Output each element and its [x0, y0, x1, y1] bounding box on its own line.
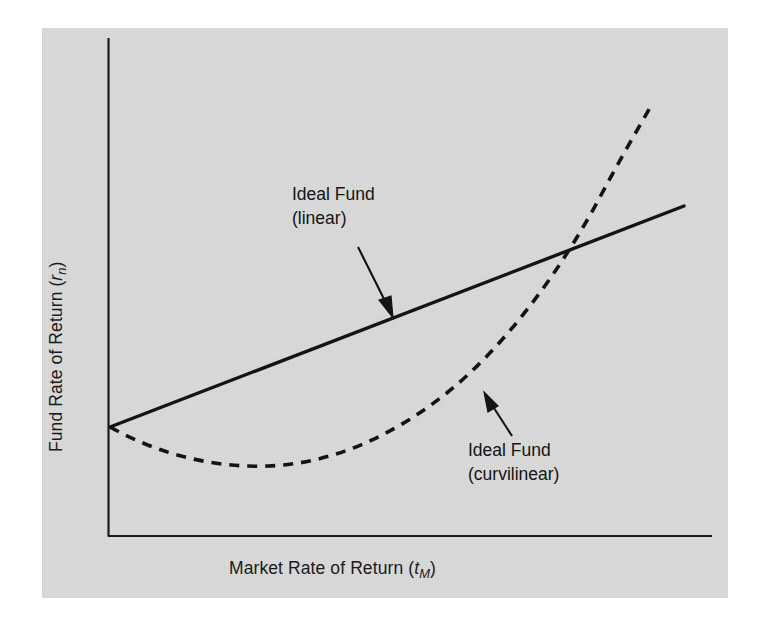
annotation-ideal-fund-curvilinear: Ideal Fund (curvilinear) [468, 438, 559, 486]
annotation-ideal-fund-linear: Ideal Fund (linear) [292, 182, 375, 230]
y-axis-label-subscript: n [54, 267, 69, 274]
annotation-linear-line2: (linear) [292, 206, 375, 230]
annotation-curvilinear-line1: Ideal Fund [468, 438, 559, 462]
figure-page: Fund Rate of Return (rn) Market Rate of … [0, 0, 771, 635]
y-axis-label-suffix: ) [46, 261, 66, 267]
y-axis-label-variable: r [46, 275, 66, 281]
figure-background-panel [42, 28, 728, 598]
y-axis-label-prefix: Fund Rate of Return ( [46, 281, 66, 452]
x-axis-label-suffix: ) [430, 558, 436, 578]
x-axis-label: Market Rate of Return (tM) [229, 558, 436, 581]
annotation-curvilinear-line2: (curvilinear) [468, 462, 559, 486]
x-axis-label-prefix: Market Rate of Return ( [229, 558, 414, 578]
x-axis-label-subscript: M [419, 566, 430, 581]
y-axis-label: Fund Rate of Return (rn) [46, 261, 69, 452]
annotation-linear-line1: Ideal Fund [292, 182, 375, 206]
